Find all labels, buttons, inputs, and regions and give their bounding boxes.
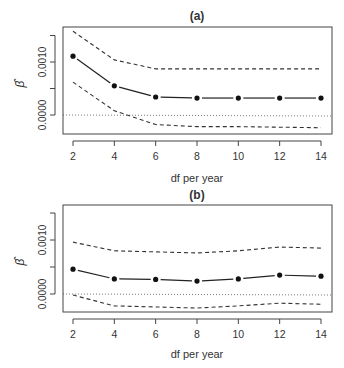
panel-b-plot-frame [63,205,332,312]
y-tick-label: 0.0010 [37,46,48,77]
y-tick-label: 0.0000 [37,99,48,130]
panel-b-series [63,242,332,308]
estimate-point [277,273,282,278]
panel-b-y-label: β̂ [13,257,27,267]
x-tick-label: 8 [194,150,200,162]
estimate-point [318,274,323,279]
zero-reference-line [63,115,332,116]
panel-a-x-label: df per year [171,172,224,184]
panel-b-title: (b) [189,188,204,202]
estimate-point [318,95,323,100]
estimate-point [70,267,75,272]
estimate-line-segment [161,280,192,281]
estimate-point [153,277,158,282]
panel-b-x-axis: 2468101214 [70,319,327,340]
upper-ci-line [73,242,321,253]
panel-a-plot-frame [63,27,332,134]
estimate-line-segment [77,59,110,83]
x-tick-label: 4 [111,150,117,162]
estimate-line-segment [285,275,316,276]
zero-reference-line [63,294,332,295]
x-tick-label: 10 [232,328,244,340]
panel-b-y-axis: 0.00000.0010 [37,213,55,309]
estimate-point [194,95,199,100]
x-tick-label: 6 [153,328,159,340]
lower-ci-line [73,82,321,128]
estimate-line-segment [202,279,233,281]
x-tick-label: 8 [194,328,200,340]
x-tick-label: 6 [153,150,159,162]
panel-a-y-label: β̂ [13,79,27,89]
estimate-point [112,276,117,281]
x-tick-label: 2 [70,328,76,340]
y-tick-label: 0.0000 [37,278,48,309]
estimate-line-segment [119,87,151,96]
x-tick-label: 14 [315,150,327,162]
panel-a-title: (a) [190,9,205,23]
estimate-point [153,94,158,99]
estimate-point [70,54,75,59]
x-tick-label: 12 [274,328,286,340]
estimate-point [236,276,241,281]
estimate-line-segment [78,270,110,277]
panel-a-x-axis: 2468101214 [70,141,327,162]
panel-a-y-axis: 0.00000.0010 [37,36,55,131]
estimate-point [112,83,117,88]
estimate-line-segment [243,276,274,279]
panel-a: (a) 0.00000.0010 2468101214 df per year … [13,9,332,184]
y-tick-label: 0.0010 [37,224,48,255]
x-tick-label: 14 [315,328,327,340]
x-tick-label: 12 [274,150,286,162]
x-tick-label: 2 [70,150,76,162]
panel-b-x-label: df per year [171,348,224,360]
panel-b: (b) 0.00000.0010 2468101214 df per year … [13,188,332,360]
panel-a-series [63,31,332,127]
figure: (a) 0.00000.0010 2468101214 df per year … [0,0,344,368]
estimate-point [277,95,282,100]
x-tick-label: 4 [111,328,117,340]
estimate-line-segment [161,97,192,98]
estimate-point [236,95,241,100]
estimate-point [194,278,199,283]
lower-ci-line [73,295,321,308]
x-tick-label: 10 [232,150,244,162]
upper-ci-line [73,31,321,69]
